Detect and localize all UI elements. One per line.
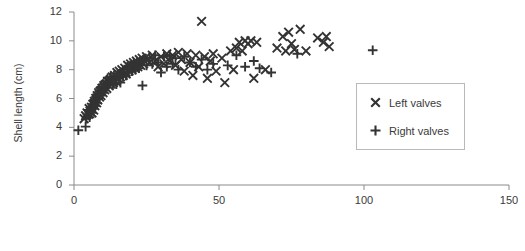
x-tick-label: 50	[204, 194, 234, 206]
data-point	[281, 47, 290, 56]
series-right-valves	[74, 45, 378, 135]
data-point	[284, 28, 293, 37]
data-point	[156, 68, 166, 78]
y-tick-label: 6	[36, 92, 62, 104]
data-point	[302, 47, 311, 56]
legend-label-left-valves: Left valves	[389, 97, 442, 109]
data-point	[266, 68, 276, 78]
data-point	[252, 38, 261, 47]
y-tick-label: 0	[36, 178, 62, 190]
data-point	[203, 65, 213, 75]
x-tick-label: 150	[494, 194, 524, 206]
data-point	[250, 74, 259, 83]
data-point	[296, 25, 305, 34]
data-point	[192, 51, 201, 60]
x-tick-label: 100	[349, 194, 379, 206]
data-point	[180, 67, 189, 76]
data-point	[197, 17, 206, 26]
legend-item-right-valves: Right valves	[369, 124, 449, 137]
data-point	[221, 78, 230, 87]
data-point	[273, 44, 282, 53]
x-marker-icon	[369, 96, 382, 109]
data-point	[229, 65, 238, 74]
y-tick-label: 12	[36, 5, 62, 17]
y-tick-label: 8	[36, 63, 62, 75]
data-point	[218, 54, 227, 63]
data-point	[279, 32, 288, 41]
y-axis-title: Shell length (cm)	[12, 43, 24, 163]
data-point	[203, 74, 212, 83]
chart-legend: Left valves Right valves	[356, 83, 465, 150]
data-point	[249, 56, 259, 66]
data-point	[189, 71, 198, 80]
legend-label-right-valves: Right valves	[389, 125, 449, 137]
legend-item-left-valves: Left valves	[369, 96, 442, 109]
plus-marker-icon	[369, 124, 382, 137]
y-tick-label: 10	[36, 34, 62, 46]
data-point	[223, 61, 233, 71]
y-tick-label: 2	[36, 149, 62, 161]
scatter-chart: Shell length (cm) Left valves Right valv…	[0, 0, 525, 251]
data-point	[191, 62, 201, 72]
data-point	[313, 34, 322, 43]
x-tick-label: 0	[59, 194, 89, 206]
data-point	[240, 62, 250, 72]
data-point	[368, 45, 378, 55]
data-point	[138, 81, 148, 91]
y-tick-label: 4	[36, 120, 62, 132]
data-point	[325, 42, 334, 51]
